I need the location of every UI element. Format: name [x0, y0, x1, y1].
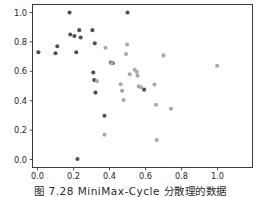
scatter-point [124, 52, 128, 56]
x-tick-label: 0.0 [31, 171, 44, 181]
scatter-point [119, 82, 123, 86]
scatter-point [139, 85, 143, 89]
x-tick-label: 1.0 [211, 171, 224, 181]
scatter-point [121, 98, 125, 102]
scatter-point [135, 70, 139, 74]
scatter-point [103, 46, 107, 50]
scatter-point [67, 10, 71, 14]
scatter-point [93, 91, 97, 95]
scatter-point [120, 89, 124, 93]
y-tick-label: 0.0 [14, 155, 27, 165]
scatter-point [68, 33, 72, 37]
scatter-point [128, 72, 132, 76]
scatter-point [154, 103, 158, 107]
scatter-point [77, 28, 81, 32]
y-tick-label: 1.0 [14, 8, 27, 18]
x-tick-label: 0.4 [103, 171, 116, 181]
scatter-point [79, 35, 83, 39]
scatter-point [125, 10, 129, 14]
scatter-plot: 0.00.20.40.60.81.00.00.20.40.60.81.0 [0, 0, 261, 197]
scatter-point [169, 107, 173, 111]
y-tick-label: 0.8 [14, 37, 27, 47]
scatter-point [152, 82, 156, 86]
scatter-point [136, 74, 140, 78]
scatter-point [90, 28, 94, 32]
scatter-point [93, 41, 97, 45]
scatter-point [125, 43, 129, 47]
scatter-point [110, 61, 114, 65]
x-tick-label: 0.8 [175, 171, 188, 181]
scatter-point [75, 157, 79, 161]
scatter-point [91, 70, 95, 74]
scatter-point [102, 133, 106, 137]
scatter-point [161, 53, 165, 57]
scatter-point [53, 51, 57, 55]
scatter-point [102, 114, 106, 118]
x-tick-label: 0.2 [67, 171, 80, 181]
figure-container: 0.00.20.40.60.81.00.00.20.40.60.81.0 图 7… [0, 0, 261, 197]
x-tick-label: 0.6 [139, 171, 152, 181]
scatter-point [55, 44, 59, 48]
y-tick-label: 0.4 [14, 96, 27, 106]
scatter-point [155, 138, 159, 142]
figure-caption: 图 7.28 MiniMax-Cycle 分散理的数据 [0, 185, 261, 197]
scatter-point [74, 50, 78, 54]
scatter-point [36, 50, 40, 54]
scatter-point [72, 34, 76, 38]
scatter-point [95, 79, 99, 83]
y-tick-label: 0.6 [14, 66, 27, 76]
y-tick-label: 0.2 [14, 125, 27, 135]
scatter-point [215, 64, 219, 68]
